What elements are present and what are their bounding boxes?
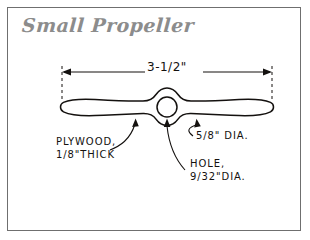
center-hole-circle	[157, 97, 177, 117]
annotation-plywood-line2: 1/8"THICK	[56, 148, 116, 161]
annotation-plywood: PLYWOOD, 1/8"THICK	[56, 135, 116, 161]
dimension-value-label: 3-1/2"	[145, 60, 189, 74]
dimension-arrowhead-left	[62, 69, 71, 76]
annotation-boss-line1: 5/8" DIA.	[196, 129, 248, 142]
annotation-hole: HOLE, 9/32"DIA.	[190, 157, 246, 183]
annotation-hole-line2: 9/32"DIA.	[190, 170, 246, 183]
annotation-boss: 5/8" DIA.	[196, 129, 248, 142]
annotation-plywood-line1: PLYWOOD,	[56, 135, 116, 148]
propeller-technical-drawing	[0, 0, 310, 240]
annotation-hole-line1: HOLE,	[190, 157, 246, 170]
leader-line-hole	[167, 126, 185, 170]
drawing-page: Small Propeller 3-1/2" PLYWOOD, 1/8"THIC…	[0, 0, 310, 240]
dimension-arrowhead-right	[263, 69, 272, 76]
leader-arrowhead-plywood	[132, 119, 139, 128]
leader-arrowhead-boss	[194, 119, 201, 128]
